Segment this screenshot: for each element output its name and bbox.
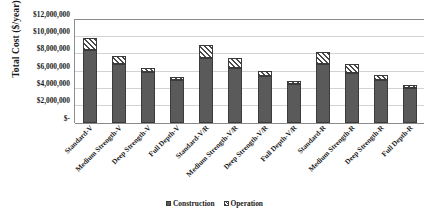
bar-group[interactable] — [170, 77, 184, 122]
legend-item[interactable]: Construction — [166, 199, 214, 208]
legend-label: Operation — [231, 199, 263, 208]
bar-group[interactable] — [374, 75, 388, 122]
y-axis-tick-label: $6,000,000 — [16, 63, 70, 71]
bar-segment-construction[interactable] — [83, 50, 97, 123]
bar-segment-construction[interactable] — [258, 76, 272, 123]
bar-segment-operation[interactable] — [199, 45, 213, 57]
bar-segment-construction[interactable] — [199, 58, 213, 123]
bar-segment-construction[interactable] — [228, 68, 242, 123]
bar-segment-construction[interactable] — [141, 72, 155, 122]
bar-segment-operation[interactable] — [112, 56, 126, 63]
bar-group[interactable] — [228, 58, 242, 122]
bar-segment-construction[interactable] — [374, 80, 388, 122]
plot-area — [74, 19, 424, 123]
y-axis-tick-label: $4,000,000 — [16, 80, 70, 88]
bar-segment-operation[interactable] — [345, 64, 359, 72]
bar-segment-construction[interactable] — [345, 73, 359, 123]
bar-group[interactable] — [287, 81, 301, 123]
legend-label: Construction — [173, 199, 214, 208]
y-axis-tick-label: $10,000,000 — [16, 28, 70, 36]
bar-group[interactable] — [345, 64, 359, 122]
legend-item[interactable]: Operation — [224, 199, 263, 208]
bar-segment-construction[interactable] — [170, 80, 184, 122]
y-axis-tick-labels: $12,000,000$10,000,000$8,000,000$6,000,0… — [16, 14, 70, 126]
bar-segment-operation[interactable] — [316, 52, 330, 63]
y-axis-tick-label: $2,000,000 — [16, 97, 70, 105]
bar-group[interactable] — [403, 85, 417, 122]
x-axis-tick-labels: Standard-VMedium Strength-VDeep Strength… — [74, 124, 424, 196]
bar-group[interactable] — [258, 71, 272, 123]
bar-group[interactable] — [141, 68, 155, 123]
bar-segment-construction[interactable] — [403, 88, 417, 123]
y-axis-tick-label: $12,000,000 — [16, 11, 70, 19]
bar-segment-operation[interactable] — [83, 38, 97, 50]
bar-segment-operation[interactable] — [228, 58, 242, 68]
bar-group[interactable] — [199, 45, 213, 122]
bar-group[interactable] — [112, 56, 126, 122]
bars-layer — [75, 19, 424, 123]
y-axis-tick-label: $8,000,000 — [16, 45, 70, 53]
bar-segment-construction[interactable] — [316, 64, 330, 123]
bar-chart: Total Cost ($/year) $12,000,000$10,000,0… — [0, 0, 429, 222]
y-axis-tick-label: $- — [16, 115, 70, 123]
bar-segment-construction[interactable] — [287, 84, 301, 123]
bar-group[interactable] — [316, 52, 330, 122]
bar-group[interactable] — [83, 38, 97, 123]
chart-legend: ConstructionOperation — [0, 199, 429, 208]
legend-swatch-operation-icon — [224, 201, 229, 206]
bar-segment-construction[interactable] — [112, 64, 126, 123]
legend-swatch-construction-icon — [166, 201, 171, 206]
